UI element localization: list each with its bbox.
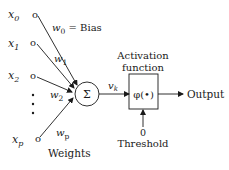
svg-text:x0: x0	[8, 8, 19, 23]
activation-function-box: φ(•)	[129, 74, 158, 109]
sigma-symbol: Σ	[83, 88, 91, 101]
input-node: o	[35, 133, 41, 144]
weights-label: Weights	[48, 147, 91, 159]
summation-junction: Σ	[75, 82, 99, 106]
neuron-diagram: x0 o w0 = Bias x1 o w1 x2 o w2 xp o wp W…	[0, 0, 229, 170]
svg-text:x1: x1	[8, 37, 19, 52]
input-node: o	[32, 9, 38, 20]
weight-label-w1: w1	[54, 53, 67, 67]
output-label: Output	[187, 88, 225, 100]
svg-text:x2: x2	[8, 69, 19, 84]
threshold-value: 0	[140, 127, 146, 138]
ellipsis-dots	[32, 94, 34, 114]
weight-label-w0: w0 = Bias	[52, 22, 102, 36]
phi-symbol: φ(•)	[133, 89, 154, 100]
induced-field-label: vk	[108, 80, 118, 93]
weight-label-w2: w2	[50, 89, 64, 103]
activation-title-line1: Activation	[116, 50, 169, 61]
input-node: o	[30, 37, 36, 48]
weight-edge	[37, 44, 74, 88]
svg-text:xp: xp	[12, 133, 23, 148]
input-x0: x0 o w0 = Bias	[8, 8, 102, 85]
input-node: o	[30, 70, 36, 81]
activation-title-line2: function	[122, 62, 164, 73]
weight-label-wp: wp	[56, 127, 70, 141]
input-xp: xp o wp	[12, 98, 73, 148]
threshold-label: Threshold	[117, 138, 169, 149]
